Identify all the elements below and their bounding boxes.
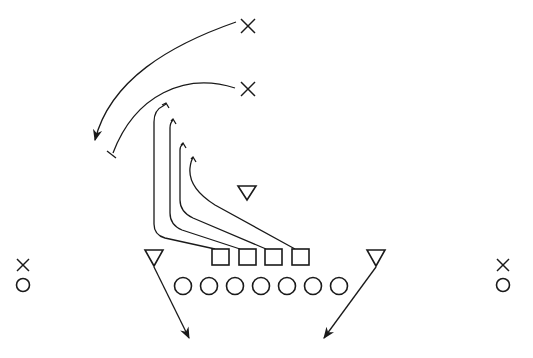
linebacker-triangle-left <box>145 250 163 266</box>
lineman-square-1 <box>212 249 229 265</box>
linebacker-triangle-right <box>367 250 385 266</box>
offense-circle-1 <box>175 278 192 295</box>
route-arrow-right <box>324 267 376 338</box>
offense-circle-4 <box>253 278 270 295</box>
receiver-circle-right <box>497 279 510 292</box>
receiver-circle-left <box>17 279 30 292</box>
route-curved-arrow <box>95 22 236 140</box>
lineman-square-3 <box>265 249 282 265</box>
route-hook-1 <box>154 104 215 249</box>
route-curved-block <box>113 83 235 153</box>
lineman-square-4 <box>292 249 309 265</box>
route-hook-4 <box>190 158 295 249</box>
linebacker-triangle-middle <box>238 186 256 200</box>
offense-circle-2 <box>201 278 218 295</box>
offense-circle-3 <box>227 278 244 295</box>
play-diagram <box>0 0 533 358</box>
block-end-mark <box>107 151 116 158</box>
offense-circle-6 <box>305 278 322 295</box>
lineman-square-2 <box>239 249 256 265</box>
defender-x-left <box>17 259 29 271</box>
defender-x-second <box>241 82 255 96</box>
offense-circle-7 <box>331 278 348 295</box>
offense-circle-5 <box>279 278 296 295</box>
defender-x-top <box>241 19 255 33</box>
defender-x-right <box>497 259 509 271</box>
